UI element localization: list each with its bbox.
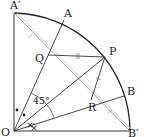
label-B-prime: B′: [128, 127, 139, 137]
segment-OA: [14, 20, 64, 131]
label-R: R: [88, 101, 97, 114]
label-B: B: [127, 85, 135, 98]
label-O: O: [1, 126, 10, 137]
geometry-diagram: × × A′ A P Q B R O B′ 45°: [0, 0, 148, 137]
angle-dot-2: [23, 114, 26, 117]
label-Q: Q: [35, 52, 44, 65]
label-angle-45: 45°: [33, 95, 50, 106]
angle-cross-mark-2: ×: [26, 119, 34, 130]
label-A: A: [63, 7, 73, 20]
angle-dot-1: [16, 109, 19, 112]
tick-A-prime-Q: [28, 35, 32, 38]
label-A-prime: A′: [9, 0, 21, 12]
label-P: P: [109, 45, 117, 58]
chord-A-prime-B-prime: [14, 13, 130, 131]
